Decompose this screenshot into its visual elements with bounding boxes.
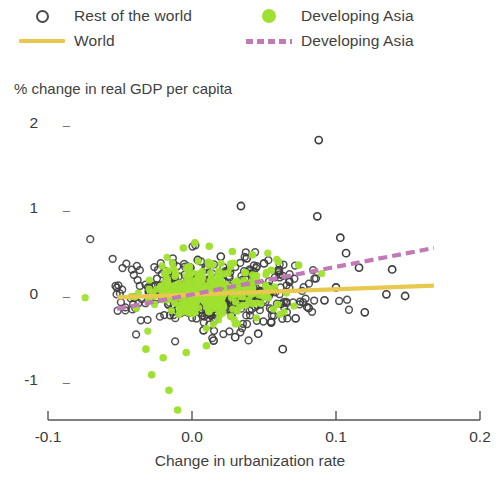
legend-label: Rest of the world — [74, 7, 192, 25]
series-developing-asia — [82, 239, 326, 414]
y-axis-title: % change in real GDP per capita — [14, 80, 232, 97]
legend-entry-developing-asia-line[interactable]: Developing Asia — [245, 30, 414, 52]
dashed-line-icon — [245, 39, 293, 44]
legend-label: Developing Asia — [301, 32, 414, 50]
y-tick-mark: – — [40, 289, 70, 304]
x-tick-label: 0.1 — [301, 428, 371, 446]
legend-label: World — [74, 32, 115, 50]
y-tick-label: 0 — [8, 285, 38, 303]
series-rest-of-the-world — [87, 136, 409, 352]
chart-figure: Rest of the world Developing Asia World … — [0, 0, 500, 486]
y-tick-mark: – — [40, 375, 70, 390]
y-tick-mark: – — [40, 203, 70, 218]
solid-line-icon — [18, 39, 66, 43]
y-tick-label: 1 — [8, 199, 38, 217]
filled-dot-icon — [245, 9, 293, 23]
open-circle-icon — [18, 10, 66, 23]
legend-entry-rest-of-the-world[interactable]: Rest of the world — [18, 5, 192, 27]
x-axis-title: Change in urbanization rate — [0, 452, 500, 470]
x-tick-label: 0.2 — [445, 428, 500, 446]
y-tick-mark: – — [40, 118, 70, 133]
legend-entry-world-line[interactable]: World — [18, 30, 115, 52]
trend-lines — [117, 248, 434, 309]
scatter-plot-area — [0, 0, 500, 486]
y-tick-label: 2 — [8, 114, 38, 132]
legend-entry-developing-asia-points[interactable]: Developing Asia — [245, 5, 414, 27]
x-tick-label: -0.1 — [13, 428, 83, 446]
x-tick-label: 0.0 — [157, 428, 227, 446]
y-tick-label: -1 — [8, 371, 38, 389]
x-axis-line — [48, 411, 480, 420]
chart-legend: Rest of the world Developing Asia World … — [0, 0, 500, 62]
legend-label: Developing Asia — [301, 7, 414, 25]
